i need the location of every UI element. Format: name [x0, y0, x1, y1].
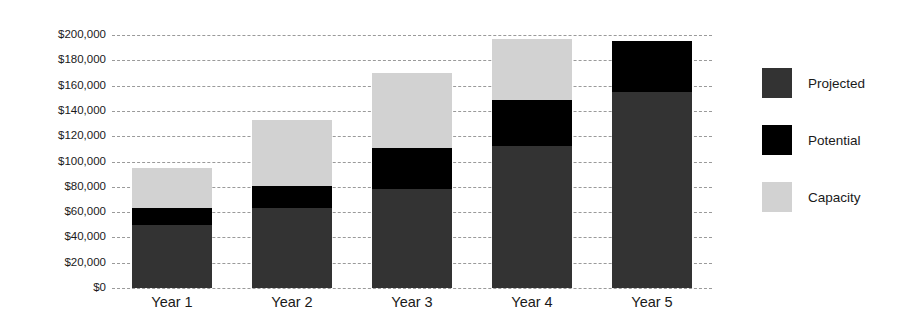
- bar-segment-potential: [132, 208, 212, 224]
- y-axis-tick-label: $80,000: [14, 181, 106, 193]
- y-axis-tick-label: $140,000: [14, 105, 106, 117]
- legend-item-projected[interactable]: Projected: [762, 68, 865, 98]
- bar-group: [372, 35, 452, 288]
- legend-label: Projected: [808, 76, 865, 91]
- bar-segment-potential: [372, 148, 452, 190]
- bar-segment-capacity: [492, 39, 572, 100]
- y-axis-tick-label: $60,000: [14, 206, 106, 218]
- y-axis-tick-label: $100,000: [14, 156, 106, 168]
- bar-segment-potential: [612, 41, 692, 92]
- bar-segment-projected: [372, 189, 452, 288]
- bar-segment-potential: [252, 186, 332, 209]
- bar-group: [132, 35, 212, 288]
- y-axis-tick-label: $20,000: [14, 257, 106, 269]
- bar-segment-capacity: [372, 73, 452, 148]
- bar-segment-projected: [252, 208, 332, 288]
- legend-label: Potential: [808, 133, 861, 148]
- bar-segment-projected: [612, 92, 692, 288]
- x-axis-tick-label: Year 2: [237, 294, 347, 310]
- stacked-bar-chart: $0$20,000$40,000$60,000$80,000$100,000$1…: [0, 0, 904, 330]
- chart-legend: ProjectedPotentialCapacity: [762, 68, 865, 239]
- bar-segment-potential: [492, 100, 572, 147]
- bar-group: [612, 35, 692, 288]
- x-axis-tick-label: Year 3: [357, 294, 467, 310]
- plot-area: [112, 35, 712, 288]
- bar-segment-projected: [492, 146, 572, 288]
- y-axis-tick-label: $40,000: [14, 232, 106, 244]
- gridline: [112, 288, 712, 289]
- bar-segment-projected: [132, 225, 212, 288]
- legend-item-potential[interactable]: Potential: [762, 125, 865, 155]
- bar-segment-capacity: [252, 120, 332, 186]
- x-axis-tick-label: Year 1: [117, 294, 227, 310]
- x-axis-tick-label: Year 4: [477, 294, 587, 310]
- y-axis-tick-label: $120,000: [14, 130, 106, 142]
- y-axis-tick-label: $180,000: [14, 55, 106, 67]
- legend-swatch-icon: [762, 182, 792, 212]
- y-axis-tick-label: $160,000: [14, 80, 106, 92]
- legend-item-capacity[interactable]: Capacity: [762, 182, 865, 212]
- legend-label: Capacity: [808, 190, 861, 205]
- x-axis-tick-label: Year 5: [597, 294, 707, 310]
- bar-segment-capacity: [132, 168, 212, 208]
- bar-group: [252, 35, 332, 288]
- y-axis-tick-label: $0: [14, 282, 106, 294]
- legend-swatch-icon: [762, 125, 792, 155]
- bar-group: [492, 35, 572, 288]
- legend-swatch-icon: [762, 68, 792, 98]
- y-axis-tick-label: $200,000: [14, 29, 106, 41]
